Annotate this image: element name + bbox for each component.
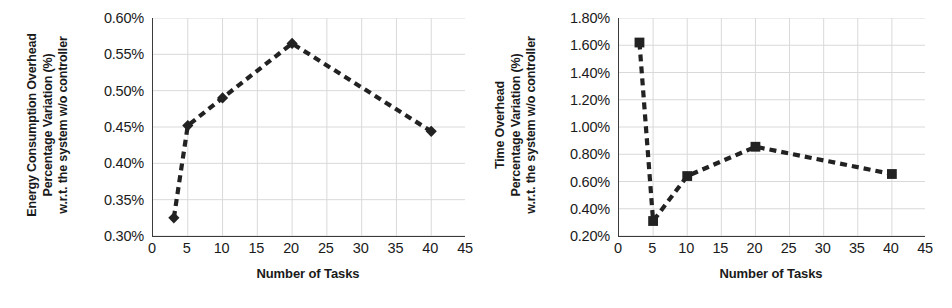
y-axis-tick-label: 0.40% bbox=[104, 155, 144, 171]
y-axis-tick-label: 0.60% bbox=[570, 174, 610, 190]
x-axis-tick-label: 0 bbox=[148, 240, 156, 256]
x-axis-tick-label: 35 bbox=[388, 240, 404, 256]
x-axis-tick-label: 15 bbox=[248, 240, 264, 256]
chart-panel-time-overhead: Time Overhead Percentage Variation (%) w… bbox=[476, 0, 952, 308]
y-axis-title-line-1: Time Overhead bbox=[493, 36, 509, 213]
y-axis-tick-label: 1.20% bbox=[570, 92, 610, 108]
x-axis-tick-label: 5 bbox=[183, 240, 191, 256]
plot-shell-time: 0.20%0.40%0.60%0.80%1.00%1.20%1.40%1.60%… bbox=[556, 18, 944, 236]
y-axis-tick-label: 0.30% bbox=[104, 228, 144, 244]
data-point-marker bbox=[648, 216, 658, 226]
x-axis-tick-label: 20 bbox=[283, 240, 299, 256]
data-series-line bbox=[174, 43, 431, 217]
y-axis-title-line-1: Energy Consumption Overhead bbox=[25, 33, 41, 216]
x-axis-tick-label: 0 bbox=[614, 240, 622, 256]
y-axis-title-time: Time Overhead Percentage Variation (%) w… bbox=[476, 0, 556, 250]
data-point-marker bbox=[635, 38, 645, 48]
data-series-line bbox=[639, 43, 891, 221]
plot-area-energy bbox=[152, 18, 465, 237]
x-axis-tick-label: 5 bbox=[648, 240, 656, 256]
x-axis-tick-label: 45 bbox=[917, 240, 933, 256]
x-axis-title-time: Number of Tasks bbox=[618, 266, 924, 281]
x-axis-tick-label: 10 bbox=[678, 240, 694, 256]
x-axis-tick-label: 20 bbox=[747, 240, 763, 256]
x-axis-tick-label: 40 bbox=[422, 240, 438, 256]
x-axis-tick-label: 40 bbox=[883, 240, 899, 256]
y-axis-title-line-3: w.r.t. the system w/o controller bbox=[56, 33, 72, 216]
data-point-marker bbox=[682, 171, 692, 181]
x-axis-title-energy: Number of Tasks bbox=[152, 266, 464, 281]
y-axis-tick-label: 0.45% bbox=[104, 119, 144, 135]
data-point-marker bbox=[168, 212, 179, 223]
line-chart-energy bbox=[153, 18, 465, 236]
x-axis-tick-label: 15 bbox=[712, 240, 728, 256]
y-axis-tick-labels-time: 0.20%0.40%0.60%0.80%1.00%1.20%1.40%1.60%… bbox=[556, 18, 614, 236]
x-axis-tick-label: 30 bbox=[353, 240, 369, 256]
y-axis-tick-label: 1.40% bbox=[570, 65, 610, 81]
y-axis-title-line-2: Percentage Variation (%) bbox=[508, 36, 524, 213]
y-axis-tick-label: 1.00% bbox=[570, 119, 610, 135]
y-axis-tick-label: 1.60% bbox=[570, 37, 610, 53]
data-point-marker bbox=[751, 142, 761, 152]
line-chart-time bbox=[619, 18, 925, 236]
y-axis-title-line-3: w.r.t. the system w/o controller bbox=[524, 36, 540, 213]
y-axis-tick-label: 0.40% bbox=[570, 201, 610, 217]
x-axis-tick-label: 30 bbox=[815, 240, 831, 256]
x-axis-tick-label: 10 bbox=[214, 240, 230, 256]
y-axis-tick-labels-energy: 0.30%0.35%0.40%0.45%0.50%0.55%0.60% bbox=[96, 18, 148, 236]
x-axis-tick-label: 25 bbox=[318, 240, 334, 256]
y-axis-tick-label: 0.50% bbox=[104, 83, 144, 99]
x-axis-tick-label: 45 bbox=[457, 240, 473, 256]
x-axis-tick-label: 25 bbox=[781, 240, 797, 256]
y-axis-title-line-2: Percentage Variation (%) bbox=[40, 33, 56, 216]
y-axis-tick-label: 0.35% bbox=[104, 192, 144, 208]
y-axis-tick-label: 0.20% bbox=[570, 228, 610, 244]
plot-shell-energy: 0.30%0.35%0.40%0.45%0.50%0.55%0.60% bbox=[96, 18, 468, 236]
y-axis-tick-label: 1.80% bbox=[570, 10, 610, 26]
y-axis-tick-label: 0.80% bbox=[570, 146, 610, 162]
plot-area-time bbox=[618, 18, 925, 237]
y-axis-title-energy: Energy Consumption Overhead Percentage V… bbox=[0, 0, 96, 250]
y-axis-tick-label: 0.55% bbox=[104, 46, 144, 62]
data-point-marker bbox=[887, 169, 897, 179]
chart-panel-energy-consumption-overhead: Energy Consumption Overhead Percentage V… bbox=[0, 0, 476, 308]
y-axis-tick-label: 0.60% bbox=[104, 10, 144, 26]
x-axis-tick-label: 35 bbox=[849, 240, 865, 256]
figure-container: Energy Consumption Overhead Percentage V… bbox=[0, 0, 952, 308]
